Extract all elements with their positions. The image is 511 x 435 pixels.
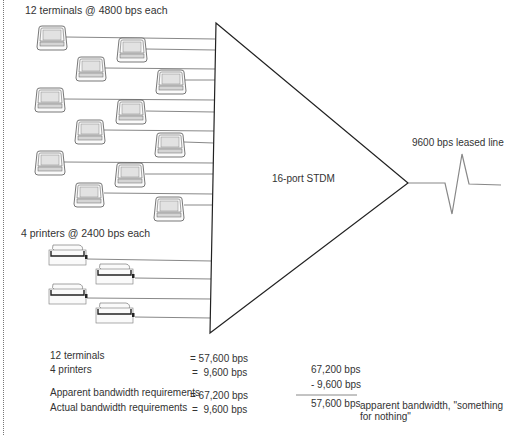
terminal-icon	[75, 120, 105, 144]
terminals-heading: 12 terminals @ 4800 bps each	[25, 4, 168, 16]
terminal-icon	[74, 183, 104, 207]
terminal-icon	[35, 151, 65, 175]
summary-value: = 57,600 bps	[190, 353, 248, 364]
printers-heading: 4 printers @ 2400 bps each	[21, 227, 150, 239]
calc-line-2: - 9,600 bps	[311, 379, 361, 390]
summary-label: 4 printers	[50, 364, 92, 375]
summary-value: = 67,200 bps	[190, 390, 248, 401]
printer-icon	[96, 264, 135, 284]
terminal-icon	[154, 197, 184, 221]
leased-line-zigzag	[408, 154, 501, 214]
summary-label: Apparent bandwidth requirements	[50, 387, 200, 398]
summary-value: = 9,600 bps	[192, 404, 247, 415]
terminal-icon	[156, 70, 186, 94]
printer-icon	[49, 284, 88, 304]
terminal-icon	[76, 57, 106, 81]
terminal-icon	[115, 163, 145, 187]
multiplexer-label: 16-port STDM	[272, 173, 335, 184]
summary-value: = 9,600 bps	[192, 367, 247, 378]
summary-label: 12 terminals	[50, 350, 104, 361]
printer-icon	[49, 245, 88, 265]
terminal-icon	[35, 88, 65, 112]
calc-result: 57,600 bps	[311, 398, 361, 409]
leased-line-label: 9600 bps leased line	[412, 137, 504, 148]
printers	[49, 245, 135, 323]
terminals	[35, 26, 186, 221]
terminal-icon	[117, 38, 147, 62]
terminal-icon	[116, 100, 146, 124]
calc-note-line-2: for nothing"	[360, 411, 411, 422]
calc-line-1: 67,200 bps	[311, 364, 361, 375]
summary-label: Actual bandwidth requirements	[50, 402, 187, 413]
terminal-icon	[155, 133, 185, 157]
calc-note-line-1: apparent bandwidth, "something	[360, 400, 503, 411]
terminal-icon	[37, 26, 67, 50]
printer-icon	[96, 303, 135, 323]
